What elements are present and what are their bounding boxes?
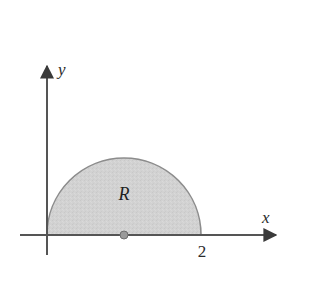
x-axis-label: x [261, 208, 270, 227]
figure-container: y x R 2 [0, 0, 314, 282]
semicircle-diagram: y x R 2 [0, 0, 314, 282]
center-dot [120, 231, 128, 239]
y-axis-label: y [56, 60, 66, 79]
region-label-r: R [118, 184, 130, 204]
x-tick-label-2: 2 [198, 242, 207, 261]
